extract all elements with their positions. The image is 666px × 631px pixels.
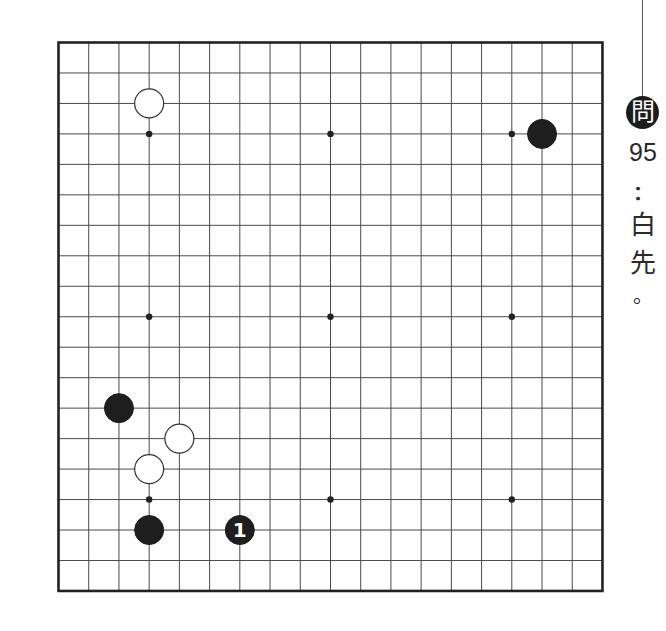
- problem-instruction: ： 白 先 。: [620, 180, 666, 310]
- problem-label-panel: 問 95 ： 白 先 。: [620, 0, 666, 631]
- star-point: [146, 131, 152, 137]
- star-point: [146, 314, 152, 320]
- star-point: [509, 314, 515, 320]
- star-point: [327, 131, 333, 137]
- star-point: [509, 496, 515, 502]
- black-stone: [528, 119, 557, 148]
- star-point: [509, 131, 515, 137]
- star-point: [146, 496, 152, 502]
- white-stone: [165, 424, 194, 453]
- move-number: 1: [233, 518, 247, 542]
- divider-line: [642, 0, 643, 98]
- colon: ：: [620, 180, 666, 206]
- go-board: 1: [0, 0, 666, 631]
- star-point: [327, 496, 333, 502]
- problem-badge: 問: [626, 96, 659, 129]
- black-stone-move-1: 1: [225, 516, 254, 545]
- white-stone: [135, 89, 164, 118]
- period: 。: [620, 282, 666, 310]
- black-stone: [104, 394, 133, 423]
- problem-number: 95: [620, 138, 666, 167]
- instruction-char-first: 先: [620, 244, 666, 282]
- black-stone: [135, 516, 164, 545]
- instruction-char-white: 白: [620, 206, 666, 244]
- star-point: [327, 314, 333, 320]
- white-stone: [135, 455, 164, 484]
